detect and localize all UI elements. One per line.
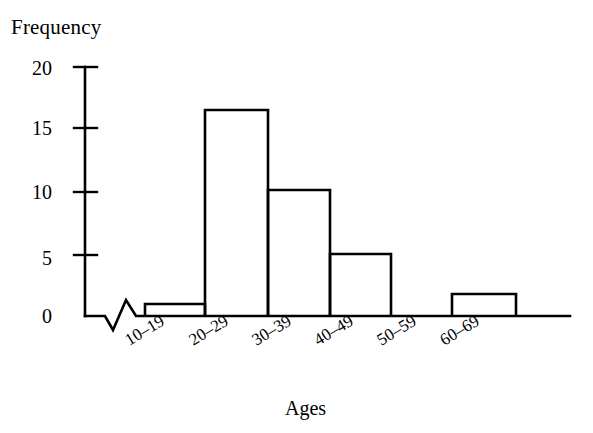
y-axis: [74, 67, 97, 316]
bar-20-29: [205, 110, 268, 316]
bar-30-39: [268, 190, 330, 316]
bar-40-49: [330, 254, 391, 316]
histogram-chart: Frequency 20 15 10 5 0 10–19 20–29 30–39…: [0, 0, 593, 433]
plot-area: [0, 0, 593, 433]
x-axis-title-text: Ages: [285, 397, 326, 419]
x-axis-title: Ages: [0, 396, 593, 420]
bars: [145, 110, 516, 316]
bar-60-69: [452, 294, 516, 316]
